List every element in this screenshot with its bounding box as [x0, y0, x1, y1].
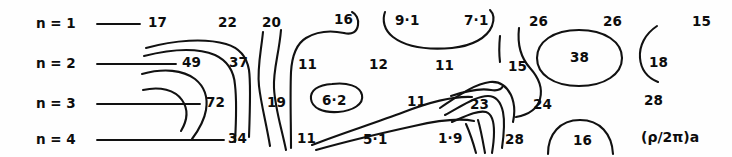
- contour-label-28-a: 28: [505, 133, 524, 147]
- level-value-n3: 72: [206, 96, 225, 110]
- contour-label-18: 18: [649, 56, 668, 70]
- contour-label-28-b: 28: [644, 94, 663, 108]
- contour-label-20: 20: [262, 16, 281, 30]
- contour-label-19: 19: [267, 96, 286, 110]
- contour-19: [274, 30, 286, 150]
- contour-label-7-1: 7·1: [464, 14, 489, 28]
- contour-label-37: 37: [229, 56, 248, 70]
- contour-label-9-1: 9·1: [395, 14, 420, 28]
- level-label-n3: n = 3: [36, 97, 76, 111]
- level-label-n4: n = 4: [36, 133, 76, 147]
- contour-label-11-b: 11: [297, 132, 316, 146]
- contour-label-11-a: 11: [298, 58, 317, 72]
- contour-label-1-9: 1·9: [438, 132, 463, 146]
- contour-group-11-16: [291, 12, 359, 148]
- contour-label-12: 12: [369, 58, 388, 72]
- contour-1-9-a: [466, 124, 476, 153]
- level-label-n2: n = 2: [36, 57, 76, 71]
- contour-group-1-9-fan: [466, 120, 485, 153]
- contour-group-20-19: [258, 30, 286, 150]
- contour-label-38: 38: [570, 51, 589, 65]
- contour-label-23: 23: [470, 98, 489, 112]
- contour-label-15-a: 15: [508, 60, 527, 74]
- contour-figure: n = 1 n = 2 n = 3 n = 4 17 49 72 34 22 3…: [0, 0, 732, 157]
- level-value-n2: 49: [182, 56, 201, 70]
- contour-label-26-b: 26: [603, 15, 622, 29]
- contour-label-5-1: 5·1: [363, 133, 388, 147]
- contour-label-16-b: 16: [573, 134, 592, 148]
- contour-15-join: [451, 86, 503, 96]
- contour-label-24: 24: [533, 98, 552, 112]
- contour-label-11-c: 11: [407, 95, 426, 109]
- contour-72-innermost: [143, 88, 186, 131]
- level-value-n4: 34: [228, 132, 247, 146]
- contour-20: [258, 32, 270, 146]
- level-label-n1: n = 1: [36, 17, 76, 31]
- contour-15-short: [499, 36, 500, 62]
- contour-label-26-a: 26: [529, 15, 548, 29]
- contour-label-16-a: 16: [334, 13, 353, 27]
- contour-label-22: 22: [218, 16, 237, 30]
- contour-label-15-b: 15: [692, 15, 711, 29]
- contour-label-6-2: 6·2: [322, 94, 347, 108]
- level-value-n1: 17: [148, 16, 167, 30]
- contour-label-11-d: 11: [435, 59, 454, 73]
- axis-label: (ρ/2π)a: [641, 130, 699, 144]
- contour-1-9-b: [478, 120, 485, 153]
